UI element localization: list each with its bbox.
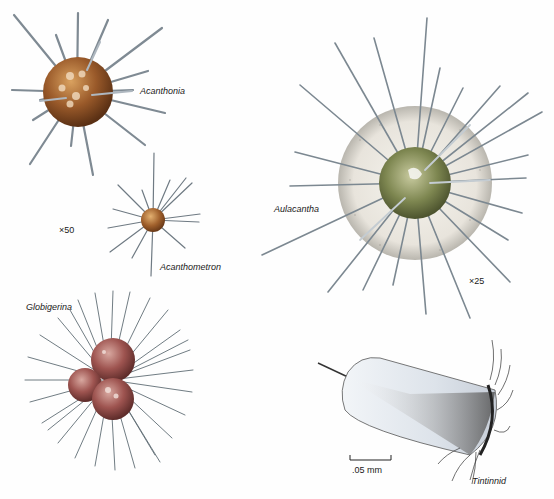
scale-bar-label: .05 mm — [352, 465, 382, 475]
plankton-drawing — [0, 0, 554, 499]
label-tintinnid: Tintinnid — [472, 476, 506, 486]
label-acanthometron: Acanthometron — [160, 262, 221, 272]
label-globigerina: Globigerina — [26, 302, 72, 312]
magnification-left: ×50 — [59, 225, 74, 235]
scale-bar — [350, 455, 391, 460]
label-acanthonia: Acanthonia — [140, 86, 185, 96]
plankton-illustration: Acanthonia Acanthometron Aulacantha Glob… — [0, 0, 554, 499]
label-aulacantha: Aulacantha — [274, 204, 319, 214]
magnification-right: ×25 — [469, 276, 484, 286]
tintinnid-organism — [318, 340, 513, 484]
